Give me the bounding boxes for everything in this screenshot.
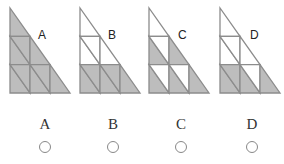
option-label-c: C — [171, 116, 191, 133]
figure-label-d: D — [250, 28, 259, 42]
cell-bot-edge — [189, 65, 209, 93]
figure-label-b: B — [108, 28, 116, 42]
figure-label-a: A — [38, 28, 46, 42]
option-label-d: D — [242, 116, 262, 133]
figure-label-c: C — [178, 28, 187, 42]
option-radio-b[interactable] — [107, 141, 119, 153]
cell-bot-edge — [260, 65, 280, 93]
option-radio-c[interactable] — [175, 141, 187, 153]
figures-panel — [0, 0, 284, 100]
cell-bot-edge — [120, 65, 140, 93]
option-radio-d[interactable] — [246, 141, 258, 153]
option-radio-a[interactable] — [39, 141, 51, 153]
cell-top-edge — [80, 8, 100, 36]
cell-top-edge — [10, 8, 30, 36]
cell-top-edge — [149, 8, 169, 36]
figure-d — [220, 8, 280, 93]
option-label-b: B — [103, 116, 123, 133]
cell-top-edge — [220, 8, 240, 36]
option-label-a: A — [35, 116, 55, 133]
cell-bot-edge — [50, 65, 70, 93]
figure-a — [10, 8, 70, 93]
figure-c — [149, 8, 209, 93]
figure-b — [80, 8, 140, 93]
